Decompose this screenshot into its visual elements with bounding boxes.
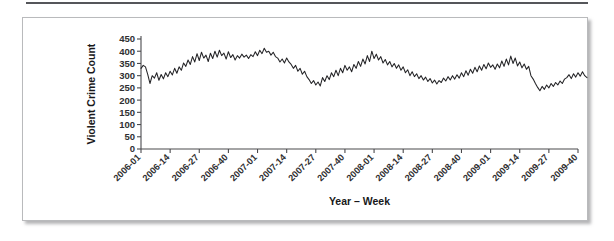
x-tick-label: 2009-14 xyxy=(490,152,522,184)
x-axis: 2006-012006-142006-272006-402007-012007-… xyxy=(112,149,580,183)
series-group xyxy=(141,48,587,91)
y-axis: 050100150200250300350400450 xyxy=(119,33,141,154)
x-tick-label: 2009-27 xyxy=(519,152,550,183)
y-tick-group: 050100150200250300350400450 xyxy=(119,33,141,154)
x-tick-label: 2009-40 xyxy=(549,152,580,183)
x-tick-label: 2006-01 xyxy=(112,152,143,183)
x-tick-label: 2007-01 xyxy=(228,152,259,183)
x-tick-label: 2008-40 xyxy=(432,152,463,183)
x-tick-label: 2006-40 xyxy=(199,152,230,183)
y-tick-label: 200 xyxy=(119,95,135,106)
x-tick-label: 2006-27 xyxy=(170,152,201,183)
y-tick-label: 450 xyxy=(119,33,135,44)
y-tick-label: 300 xyxy=(119,70,135,81)
x-tick-label: 2007-27 xyxy=(286,152,317,183)
line-chart: 050100150200250300350400450 2006-012006-… xyxy=(23,18,589,222)
x-tick-label: 2007-40 xyxy=(315,152,346,183)
y-tick-label: 100 xyxy=(119,119,135,130)
y-axis-title: Violent Crime Count xyxy=(85,43,97,144)
y-tick-label: 50 xyxy=(124,131,135,142)
y-tick-label: 150 xyxy=(119,107,135,118)
series-line xyxy=(141,48,587,91)
chart-svg: 050100150200250300350400450 2006-012006-… xyxy=(23,18,589,222)
x-tick-label: 2009-01 xyxy=(461,152,492,183)
x-tick-label: 2008-14 xyxy=(374,152,406,184)
y-tick-label: 250 xyxy=(119,82,135,93)
y-tick-label: 350 xyxy=(119,58,135,69)
x-tick-group: 2006-012006-142006-272006-402007-012007-… xyxy=(112,149,580,183)
x-tick-label: 2007-14 xyxy=(257,152,289,184)
y-tick-label: 400 xyxy=(119,46,135,57)
top-horizontal-rule xyxy=(26,2,588,4)
x-tick-label: 2006-14 xyxy=(141,152,173,184)
x-axis-title: Year – Week xyxy=(329,195,390,207)
figure-panel: 050100150200250300350400450 2006-012006-… xyxy=(22,17,588,221)
x-tick-label: 2008-27 xyxy=(403,152,434,183)
x-tick-label: 2008-01 xyxy=(345,152,376,183)
